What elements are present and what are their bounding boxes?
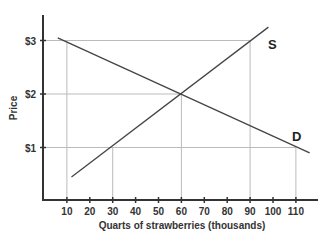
x-tick-label: 50 — [153, 206, 165, 217]
y-tick-label: $2 — [25, 89, 37, 100]
x-tick-label: 40 — [130, 206, 142, 217]
x-tick-label: 30 — [107, 206, 119, 217]
x-tick-label: 110 — [288, 206, 305, 217]
demand-curve-label: D — [292, 129, 301, 144]
y-axis-title: Price — [8, 95, 19, 120]
x-tick-label: 90 — [245, 206, 257, 217]
x-tick-label: 60 — [176, 206, 188, 217]
x-tick-label: 100 — [265, 206, 282, 217]
x-tick-label: 20 — [84, 206, 96, 217]
x-tick-label: 10 — [61, 206, 73, 217]
demand-curve — [58, 38, 310, 153]
supply-curve — [71, 27, 268, 177]
x-tick-label: 80 — [222, 206, 234, 217]
x-tick-label: 70 — [199, 206, 211, 217]
supply-demand-chart: 102030405060708090100110 $1$2$3 Quarts o… — [0, 0, 325, 237]
reference-gridlines — [44, 41, 296, 201]
supply-curve-label: S — [268, 37, 277, 52]
y-tick-label: $1 — [25, 143, 37, 154]
x-axis-title: Quarts of strawberries (thousands) — [99, 220, 266, 231]
y-tick-label: $3 — [25, 36, 37, 47]
